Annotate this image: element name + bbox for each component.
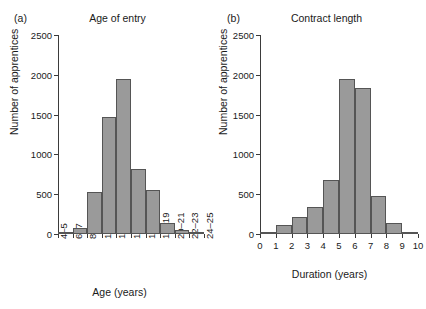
histogram-bar	[339, 79, 355, 234]
x-tick-b-3	[307, 234, 308, 238]
y-tick-a-4	[54, 75, 58, 76]
x-tick-b-10	[418, 234, 419, 238]
histogram-bar	[371, 196, 387, 234]
y-tick-label-a-3: 1500	[31, 109, 52, 120]
histogram-bar	[102, 117, 117, 234]
y-tick-label-b-0: 0	[249, 229, 254, 240]
x-tick-label-b-8: 8	[384, 240, 389, 251]
x-tick-label-a-9: 22–23	[189, 213, 200, 239]
x-tick-b-5	[339, 234, 340, 238]
histogram-bar	[87, 192, 102, 234]
histogram-bar	[160, 223, 175, 234]
histogram-bar	[276, 225, 292, 234]
y-tick-b-1	[256, 194, 260, 195]
histogram-bar	[131, 169, 146, 234]
x-tick-label-b-1: 1	[273, 240, 278, 251]
y-tick-b-5	[256, 35, 260, 36]
histogram-bar	[292, 217, 308, 234]
y-axis-label-a: Number of apprentices	[8, 29, 20, 135]
x-tick-label-b-7: 7	[368, 240, 373, 251]
panel-contract-length: (b) Contract length Number of apprentice…	[213, 0, 426, 309]
y-tick-label-b-2: 1000	[233, 149, 254, 160]
y-tick-label-a-5: 2500	[31, 30, 52, 41]
histogram-bar	[386, 223, 402, 234]
x-tick-label-b-10: 10	[413, 240, 424, 251]
y-tick-b-4	[256, 75, 260, 76]
y-tick-label-a-2: 1000	[31, 149, 52, 160]
y-tick-label-a-0: 0	[47, 229, 52, 240]
x-tick-label-b-9: 9	[400, 240, 405, 251]
histogram-bar	[402, 232, 418, 234]
histogram-bar	[323, 180, 339, 234]
histogram-bar	[175, 230, 190, 234]
x-tick-label-b-4: 4	[321, 240, 326, 251]
figure-histograms-apprentices: (a) Age of entry Number of apprentices 0…	[0, 0, 426, 309]
y-tick-label-a-4: 2000	[31, 69, 52, 80]
y-axis-line-b	[260, 35, 261, 234]
y-axis-label-b: Number of apprentices	[217, 29, 229, 135]
x-tick-b-4	[323, 234, 324, 238]
x-tick-b-9	[402, 234, 403, 238]
plot-area-a: 05001000150020002500 4–56–78–910–1112–13…	[58, 35, 204, 234]
x-tick-label-b-3: 3	[305, 240, 310, 251]
y-tick-a-5	[54, 35, 58, 36]
panel-title-a: Age of entry	[0, 12, 213, 24]
x-tick-b-0	[260, 234, 261, 238]
x-axis-label-a: Age (years)	[0, 286, 213, 298]
y-tick-a-3	[54, 115, 58, 116]
y-tick-label-a-1: 500	[36, 189, 52, 200]
y-tick-label-b-5: 2500	[233, 30, 254, 41]
histogram-bar	[260, 232, 276, 234]
x-tick-label-a-8: 20–21	[175, 213, 186, 239]
histogram-bar	[58, 232, 73, 234]
panel-title-b: Contract length	[213, 12, 426, 24]
y-tick-a-2	[54, 154, 58, 155]
histogram-bar	[355, 88, 371, 234]
x-tick-label-b-0: 0	[257, 240, 262, 251]
y-axis-line-a	[58, 35, 59, 234]
y-tick-b-2	[256, 154, 260, 155]
x-tick-label-b-2: 2	[289, 240, 294, 251]
y-tick-a-1	[54, 194, 58, 195]
x-tick-label-b-6: 6	[352, 240, 357, 251]
x-tick-b-6	[355, 234, 356, 238]
plot-area-b: 05001000150020002500 012345678910	[260, 35, 418, 234]
y-tick-label-b-1: 500	[238, 189, 254, 200]
y-tick-label-b-3: 1500	[233, 109, 254, 120]
histogram-bar	[116, 79, 131, 234]
x-tick-b-1	[276, 234, 277, 238]
histogram-bar	[307, 207, 323, 234]
x-tick-b-7	[371, 234, 372, 238]
panel-age-of-entry: (a) Age of entry Number of apprentices 0…	[0, 0, 213, 309]
x-tick-b-8	[386, 234, 387, 238]
x-axis-label-b: Duration (years)	[213, 268, 426, 280]
x-tick-b-2	[292, 234, 293, 238]
x-tick-label-b-5: 5	[336, 240, 341, 251]
histogram-bar	[189, 232, 204, 234]
y-tick-b-3	[256, 115, 260, 116]
histogram-bar	[146, 190, 161, 234]
histogram-bar	[73, 228, 88, 234]
y-tick-label-b-4: 2000	[233, 69, 254, 80]
